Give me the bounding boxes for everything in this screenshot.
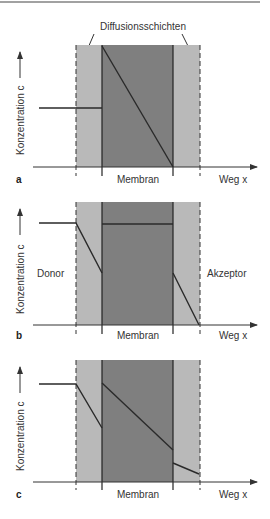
acceptor-diffusion-layer — [173, 45, 200, 167]
membrane-label: Membran — [117, 174, 159, 185]
x-axis-label: Weg x — [219, 174, 247, 185]
panel-a: Konzentration c a Membran Weg x — [15, 45, 257, 185]
donor-label: Donor — [37, 268, 65, 279]
panel-letter: c — [16, 489, 22, 500]
acceptor-label: Akzeptor — [207, 268, 247, 279]
panel-c: Konzentration c c Membran Weg x — [15, 360, 257, 500]
membrane-region — [102, 202, 173, 325]
y-axis-label: Konzentration c — [15, 245, 26, 315]
membrane-region — [102, 360, 173, 482]
x-axis-label: Weg x — [219, 489, 247, 500]
y-axis-label: Konzentration c — [15, 402, 26, 472]
acceptor-diffusion-layer — [173, 360, 200, 482]
x-axis-label: Weg x — [219, 330, 247, 341]
membrane-label: Membran — [117, 330, 159, 341]
diffusion-layers-label: Diffusionsschichten — [100, 21, 186, 32]
panel-letter: b — [16, 330, 22, 341]
acceptor-diffusion-layer — [173, 202, 200, 325]
panel-letter: a — [16, 174, 22, 185]
panel-b: Konzentration c Donor Akzeptor b Membran… — [15, 202, 257, 341]
donor-diffusion-layer — [76, 202, 102, 325]
membrane-diffusion-figure: Diffusionsschichten Konzentration c a Me… — [0, 0, 270, 519]
donor-diffusion-layer — [76, 45, 102, 167]
y-axis-label: Konzentration c — [15, 86, 26, 156]
membrane-label: Membran — [117, 489, 159, 500]
